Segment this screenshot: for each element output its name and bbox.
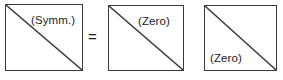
block-label-symm: (Symm.) [31, 14, 75, 27]
block-label-zero-upper: (Zero) [138, 15, 170, 28]
matrix-equation-figure: (Symm.) = (Zero) (Zero) [0, 0, 283, 80]
block-label-zero-lower: (Zero) [210, 52, 242, 65]
equals-operator: = [88, 29, 97, 44]
